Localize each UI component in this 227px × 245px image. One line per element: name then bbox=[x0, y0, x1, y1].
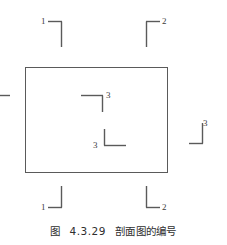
section-mark-top-right-2 bbox=[146, 22, 160, 48]
section-mark-top-left-1 bbox=[48, 22, 62, 48]
section-mark-label-right-outer-3: 3 bbox=[203, 119, 208, 128]
figure-caption: 图4.3.29剖面图的编号 bbox=[0, 224, 227, 238]
section-mark-label-bottom-left-1: 1 bbox=[41, 203, 46, 212]
plan-outline-group bbox=[26, 68, 168, 173]
section-mark-inner-lower-3 bbox=[104, 129, 126, 146]
section-mark-label-top-left-1: 1 bbox=[41, 17, 46, 26]
section-mark-label-bottom-right-2: 2 bbox=[162, 203, 167, 212]
caption-number: 4.3.29 bbox=[70, 225, 106, 237]
section-mark-label-inner-lower-3: 3 bbox=[93, 141, 98, 150]
caption-prefix: 图 bbox=[50, 225, 60, 237]
section-mark-label-inner-upper-3: 3 bbox=[106, 91, 111, 100]
section-mark-bottom-left-1 bbox=[48, 186, 62, 208]
section-mark-inner-upper-3 bbox=[81, 96, 103, 113]
section-mark-right-outer-3 bbox=[189, 123, 203, 144]
plan-outline-rectangle bbox=[26, 68, 168, 173]
caption-title: 剖面图的编号 bbox=[115, 225, 177, 237]
figure-drawing-canvas bbox=[0, 0, 227, 245]
section-mark-lines-group bbox=[0, 22, 203, 208]
section-mark-bottom-right-2 bbox=[146, 186, 160, 208]
section-mark-label-top-right-2: 2 bbox=[162, 17, 167, 26]
section-numbering-figure: 1212333 图4.3.29剖面图的编号 bbox=[0, 0, 227, 245]
